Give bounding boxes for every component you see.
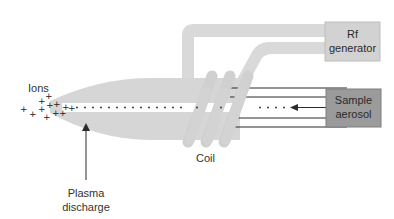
arrow-up-icon xyxy=(82,123,90,180)
rf-generator-box: Rf generator xyxy=(325,22,380,61)
icp-torch-diagram: + + + + + + + + + + + + Ions Plasma disc… xyxy=(0,0,394,219)
svg-text:+: + xyxy=(29,109,37,119)
sample-aerosol-label-line1: Sample xyxy=(335,94,372,106)
rf-generator-label-line1: Rf xyxy=(347,28,359,40)
plasma-discharge-label-line2: discharge xyxy=(62,201,110,213)
svg-text:+: + xyxy=(59,108,67,118)
plasma-discharge-label-line1: Plasma xyxy=(68,187,106,199)
svg-text:+: + xyxy=(43,112,51,122)
ions-label: Ions xyxy=(28,82,49,94)
sample-aerosol-box: Sample aerosol xyxy=(326,89,381,127)
svg-text:+: + xyxy=(20,104,28,114)
rf-generator-label-line2: generator xyxy=(329,42,376,54)
coil-label: Coil xyxy=(196,152,215,164)
svg-text:+: + xyxy=(68,103,76,113)
arrow-left-icon xyxy=(290,104,326,111)
sample-aerosol-label-line2: aerosol xyxy=(335,108,371,120)
